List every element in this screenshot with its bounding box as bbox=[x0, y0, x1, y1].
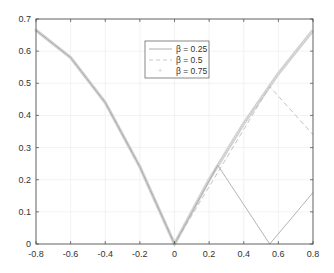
legend-marker-icon: + bbox=[158, 67, 162, 74]
y-tick-label: 0.5 bbox=[18, 78, 31, 88]
x-tick-label: 0 bbox=[172, 249, 177, 259]
legend-label-2: β = 0.5 bbox=[176, 55, 203, 65]
x-tick-label: -0.4 bbox=[97, 249, 113, 259]
x-tick-label: 0.2 bbox=[203, 249, 216, 259]
x-tick-label: -0.2 bbox=[132, 249, 148, 259]
legend-label-3: β = 0.75 bbox=[176, 66, 207, 76]
x-tick-label: 0.4 bbox=[237, 249, 250, 259]
y-tick-label: 0 bbox=[26, 239, 31, 249]
y-tick-label: 0.7 bbox=[18, 14, 31, 24]
y-tick-label: 0.1 bbox=[18, 207, 31, 217]
y-tick-label: 0.4 bbox=[18, 110, 31, 120]
x-tick-label: -0.6 bbox=[63, 249, 79, 259]
legend-label-1: β = 0.25 bbox=[176, 44, 207, 54]
y-tick-label: 0.2 bbox=[18, 175, 31, 185]
legend: + β = 0.25 β = 0.5 β = 0.75 bbox=[145, 41, 209, 78]
x-tick-label: 0.8 bbox=[307, 249, 320, 259]
x-tick-label: 0.6 bbox=[272, 249, 285, 259]
y-tick-label: 0.3 bbox=[18, 143, 31, 153]
x-tick-label: -0.8 bbox=[28, 249, 44, 259]
line-chart: -0.8-0.6-0.4-0.200.20.40.60.800.10.20.30… bbox=[0, 0, 334, 273]
y-tick-label: 0.6 bbox=[18, 46, 31, 56]
